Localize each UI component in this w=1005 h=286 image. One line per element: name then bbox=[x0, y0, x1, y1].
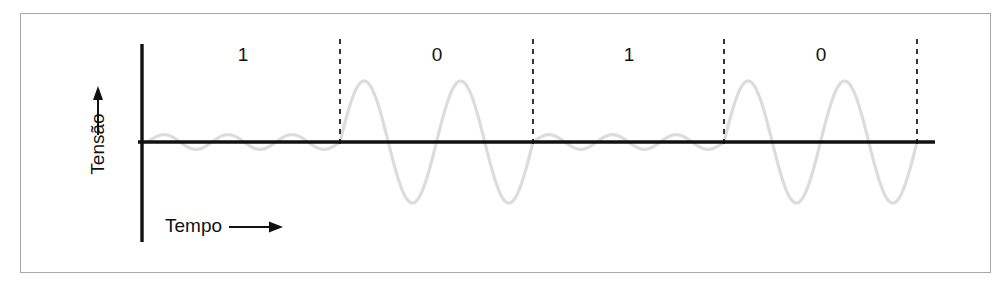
bit-label-1: 1 bbox=[223, 45, 263, 64]
x-axis-label-wrap: Tempo bbox=[165, 215, 287, 237]
bit-label-4: 0 bbox=[801, 45, 841, 64]
figure-root: 1010 Tensão Tempo bbox=[0, 0, 1005, 286]
axes-group bbox=[138, 44, 935, 242]
right-arrow-icon bbox=[227, 215, 287, 236]
bit-label-2: 0 bbox=[417, 45, 457, 64]
y-axis-label-wrap: Tensão bbox=[63, 88, 133, 212]
x-axis-label: Tempo bbox=[165, 215, 222, 236]
y-axis-label: Tensão bbox=[87, 96, 109, 192]
bit-label-3: 1 bbox=[609, 45, 649, 64]
ask-waveform-plot bbox=[0, 0, 1005, 286]
right-arrow-icon-svg bbox=[227, 220, 287, 234]
